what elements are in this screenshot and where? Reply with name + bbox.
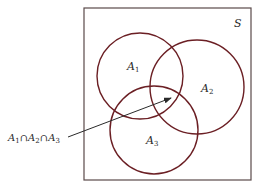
set-a1-circle — [97, 33, 183, 119]
universe-box — [84, 8, 251, 180]
venn-diagram: S A1 A2 A3 A1∩A2∩A3 — [0, 0, 256, 188]
set-a1-label: A1 — [126, 60, 139, 74]
intersection-label: A1∩A2∩A3 — [7, 132, 60, 145]
set-a3-label: A3 — [145, 134, 158, 148]
universe-label: S — [234, 17, 242, 30]
set-a2-label: A2 — [200, 82, 213, 96]
set-a3-circle — [110, 86, 198, 174]
